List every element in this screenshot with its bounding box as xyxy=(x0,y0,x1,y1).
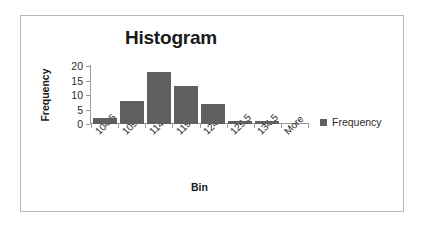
chart-legend: Frequency xyxy=(320,116,382,128)
bar xyxy=(174,86,198,124)
y-tick-label: 20 xyxy=(61,61,83,72)
x-tick-mark xyxy=(91,124,92,128)
legend-swatch-frequency xyxy=(320,119,327,126)
y-tick-label: 0 xyxy=(61,119,83,130)
x-tick-mark xyxy=(145,124,146,128)
x-tick-mark xyxy=(118,124,119,128)
bar xyxy=(147,72,171,124)
y-tick-mark xyxy=(86,81,90,82)
bar xyxy=(120,101,144,124)
y-tick-label: 5 xyxy=(61,105,83,116)
y-tick-mark xyxy=(86,95,90,96)
y-tick-label: 10 xyxy=(61,90,83,101)
y-tick-mark xyxy=(86,66,90,67)
bar xyxy=(93,118,117,124)
chart-frame: Histogram Frequency 05101520 104.5109.51… xyxy=(20,15,404,212)
bar xyxy=(201,104,225,124)
y-tick-mark xyxy=(86,124,90,125)
x-tick-mark xyxy=(200,124,201,128)
x-tick-mark xyxy=(172,124,173,128)
x-axis-title: Bin xyxy=(90,181,309,193)
chart-title: Histogram xyxy=(21,27,321,49)
bar xyxy=(255,121,279,124)
y-tick-mark xyxy=(86,110,90,111)
y-axis-title: Frequency xyxy=(39,64,51,126)
x-tick-mark xyxy=(254,124,255,128)
y-tick-label: 15 xyxy=(61,76,83,87)
x-tick-mark xyxy=(308,124,309,128)
x-tick-mark xyxy=(227,124,228,128)
bar xyxy=(228,121,252,124)
legend-label-frequency: Frequency xyxy=(332,116,382,128)
plot-area xyxy=(91,66,308,124)
